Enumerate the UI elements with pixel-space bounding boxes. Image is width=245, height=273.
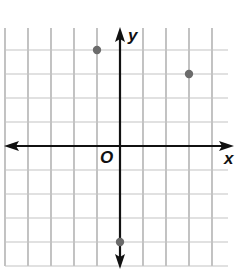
- data-point: [93, 46, 101, 54]
- origin-label: O: [100, 148, 113, 168]
- coordinate-plane: [0, 0, 245, 273]
- x-axis-label: x: [224, 149, 233, 169]
- data-point: [116, 238, 124, 246]
- axes: [4, 27, 234, 269]
- data-point: [185, 70, 193, 78]
- y-axis-label: y: [128, 26, 137, 46]
